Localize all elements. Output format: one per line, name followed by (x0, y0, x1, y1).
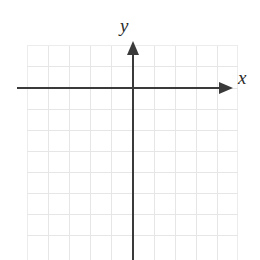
grid-line-vertical (48, 45, 49, 260)
grid-line-vertical (175, 45, 176, 260)
y-axis-label: y (120, 16, 128, 35)
grid-line-vertical (154, 45, 155, 260)
x-axis-label: x (238, 68, 246, 87)
x-axis-line (17, 87, 223, 89)
grid-line-vertical (69, 45, 70, 260)
grid-line-vertical (196, 45, 197, 260)
grid-line-vertical (90, 45, 91, 260)
arrow-right-icon (219, 82, 233, 94)
arrow-up-icon (127, 41, 139, 55)
grid-line-vertical (27, 45, 28, 260)
grid-line-vertical (217, 45, 218, 260)
grid-line-vertical (111, 45, 112, 260)
coordinate-plane-figure: x y (0, 0, 260, 260)
y-axis-line (132, 52, 134, 260)
